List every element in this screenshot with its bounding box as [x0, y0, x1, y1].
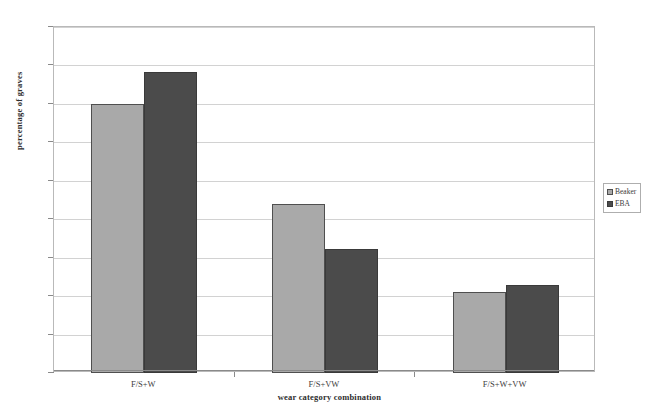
plot-area [53, 26, 595, 372]
caption-sliver [250, 403, 659, 410]
bar-eba-2 [506, 285, 559, 373]
x-tick-label: F/S+W [53, 379, 234, 389]
legend-item-eba: EBA [607, 200, 637, 208]
bar-eba-1 [325, 249, 378, 373]
x-tick-mark [414, 372, 415, 377]
legend-swatch-icon [607, 201, 613, 207]
x-tick-label: F/S+VW [234, 379, 415, 389]
bar-chart: percentage of graves 0%5%10%15%20%25%30%… [0, 0, 659, 410]
bar-beaker-0 [91, 104, 144, 373]
y-axis-title: percentage of graves [14, 72, 24, 150]
x-tick-label: F/S+W+VW [414, 379, 595, 389]
bar-beaker-1 [272, 204, 325, 373]
legend-label: Beaker [615, 188, 636, 196]
x-axis-title: wear category combination [0, 392, 659, 402]
x-axis-spine [54, 370, 594, 371]
gridline [54, 65, 594, 66]
bar-beaker-2 [453, 292, 506, 373]
legend-swatch-icon [607, 189, 613, 195]
legend-label: EBA [615, 200, 630, 208]
legend: Beaker EBA [603, 183, 641, 213]
bar-eba-0 [144, 72, 197, 373]
x-tick-mark [234, 372, 235, 377]
legend-item-beaker: Beaker [607, 188, 637, 196]
gridline [54, 27, 594, 28]
